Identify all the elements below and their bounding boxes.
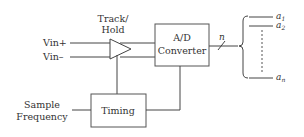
bus-width-label: n (219, 32, 225, 42)
sample-frequency-label-line2: Frequency (16, 111, 68, 122)
track-hold-amplifier-icon (110, 39, 131, 59)
output-label-an: an (276, 72, 285, 83)
adc-block-diagram: Track/ Hold Vin+ Vin– A/D Converter Timi… (0, 0, 304, 137)
vin-minus-label: Vin– (42, 51, 64, 62)
track-hold-label-line2: Hold (101, 24, 124, 35)
ad-converter-label-line1: A/D (172, 32, 191, 43)
timing-to-adc-wire (146, 66, 180, 110)
timing-label: Timing (101, 105, 135, 116)
vin-plus-label: Vin+ (42, 37, 67, 48)
ad-converter-label-line2: Converter (158, 45, 207, 56)
brace-icon (239, 16, 248, 78)
sample-frequency-label-line1: Sample (24, 99, 60, 110)
track-hold-label-line1: Track/ (98, 13, 130, 24)
